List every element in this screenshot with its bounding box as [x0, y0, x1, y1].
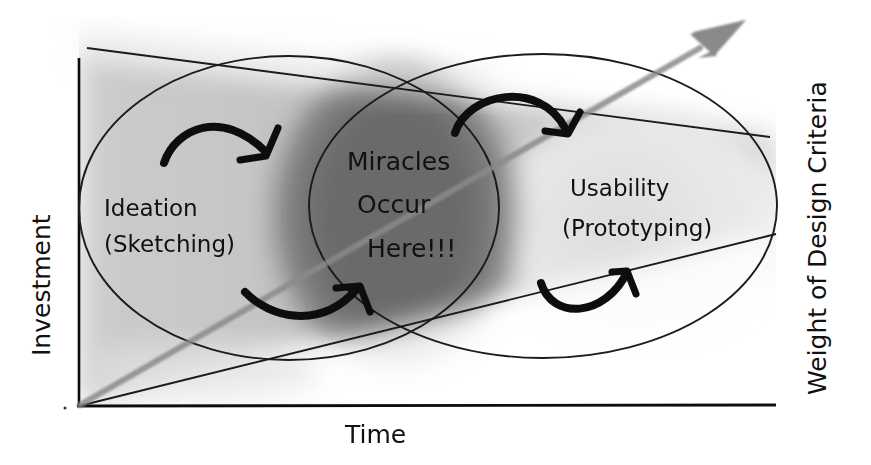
x-axis — [77, 405, 776, 406]
usability-subtitle: (Prototyping) — [562, 215, 712, 241]
origin-dot — [64, 407, 67, 410]
x-axis-label: Time — [344, 420, 406, 449]
miracles-line-1: Miracles — [347, 147, 450, 176]
right-axis-label: Weight of Design Criteria — [803, 81, 832, 395]
miracles-line-3: Here!!! — [367, 234, 456, 263]
design-process-diagram: Ideation (Sketching) Miracles Occur Here… — [0, 0, 871, 465]
miracles-line-2: Occur — [357, 190, 431, 219]
usability-title: Usability — [570, 175, 669, 201]
y-axis-label: Investment — [27, 214, 56, 356]
ideation-title: Ideation — [104, 195, 198, 221]
ideation-subtitle: (Sketching) — [104, 231, 235, 257]
